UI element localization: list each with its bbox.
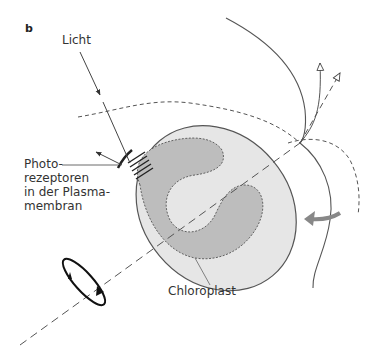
panel-label: b [25,22,33,36]
flagellum-beat-arrow [300,63,320,143]
rotation-ellipse-icon [57,254,111,311]
flagellum-upper [226,18,306,143]
light-label: Licht [62,33,91,47]
photoreceptor-label-3: in der Plasma- [24,185,110,199]
rotation-arrow-grey-head [304,211,315,226]
photoreceptor-label-1: Photo- [24,157,63,171]
photoreceptor-label-4: membran [24,199,82,213]
flagellum-dashed-right [288,139,359,215]
photoreceptor-label-2: rezeptoren [24,171,89,185]
flagellum-lower [300,143,331,288]
light-arrow [80,52,100,95]
reflect-arrow [96,152,122,165]
light-ray [103,102,130,163]
chloroplast-label: Chloroplast [168,284,236,298]
